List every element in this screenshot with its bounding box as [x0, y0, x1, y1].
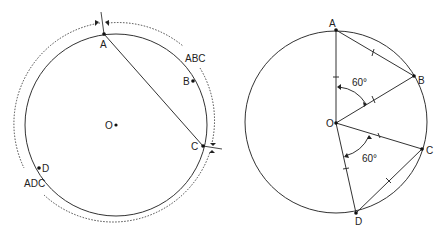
angle-label-cod: 60°	[362, 153, 377, 164]
arrowhead-icon	[210, 143, 216, 146]
arrowhead-icon	[105, 20, 109, 26]
label-a: A	[329, 18, 336, 29]
tick-line-c	[203, 146, 222, 149]
point-a-dot	[102, 32, 106, 36]
chord-ac	[104, 34, 203, 146]
point-b-dot	[191, 79, 195, 83]
label-c: C	[426, 145, 433, 156]
chord-ab	[336, 30, 414, 76]
center-o-dot	[334, 121, 338, 125]
tick-line-a	[101, 12, 104, 34]
angle-arc-aob	[339, 87, 366, 104]
label-d: D	[42, 163, 49, 174]
label-o: O	[105, 120, 113, 131]
left-figure	[14, 12, 222, 222]
right-points	[334, 28, 424, 215]
point-c-dot	[420, 147, 424, 151]
right-arrowheads	[337, 84, 372, 158]
point-c-dot	[201, 144, 205, 148]
arc-adc-indicator-lower	[44, 152, 210, 222]
circle-arcs-diagram: A B C D O ABC ADC A B C D	[0, 0, 444, 238]
arrowhead-icon	[367, 135, 372, 139]
label-c: C	[191, 141, 198, 152]
arc-abc-indicator-lower	[200, 68, 215, 143]
tick-mark	[386, 178, 391, 183]
point-b-dot	[412, 74, 416, 78]
radius-ob	[336, 76, 414, 123]
angle-label-aob: 60°	[352, 77, 367, 88]
left-arrowheads	[95, 20, 216, 153]
arc-label-abc: ABC	[185, 53, 206, 64]
point-d-dot	[354, 211, 358, 215]
label-b: B	[418, 75, 425, 86]
arrowhead-icon	[337, 84, 341, 90]
arrowhead-icon	[95, 20, 99, 26]
label-b: B	[183, 76, 190, 87]
arc-label-adc: ADC	[24, 178, 45, 189]
label-o: O	[326, 118, 334, 129]
arrowhead-icon	[209, 150, 215, 153]
arc-adc-indicator	[14, 23, 100, 168]
tick-mark	[343, 168, 349, 169]
label-a: A	[100, 39, 107, 50]
label-d: D	[355, 216, 362, 227]
center-o-dot	[114, 123, 117, 126]
point-d-dot	[37, 166, 41, 170]
